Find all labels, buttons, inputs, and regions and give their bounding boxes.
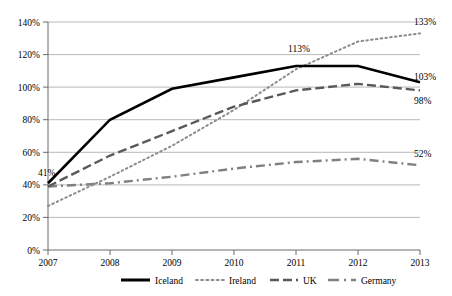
y-tick-label: 100%	[18, 83, 40, 93]
y-tick-label: 0%	[27, 246, 40, 256]
legend-item-iceland[interactable]: Iceland	[121, 276, 183, 286]
legend-label-iceland: Iceland	[155, 276, 183, 286]
x-tick-label: 2010	[225, 258, 244, 268]
data-label-uk-2013: 98%	[414, 96, 432, 106]
legend-item-germany[interactable]: Germany	[328, 276, 397, 286]
series-line-iceland	[48, 66, 420, 183]
y-tick-label: 40%	[23, 180, 41, 190]
legend-item-uk[interactable]: UK	[270, 276, 317, 286]
y-tick-label: 60%	[23, 148, 41, 158]
y-axis-labels: 140% 120% 100% 80% 60% 40% 20% 0%	[18, 18, 40, 256]
x-tick-label: 2011	[287, 258, 306, 268]
data-label-germany-2013: 52%	[414, 149, 432, 159]
data-labels: 41% 113% 133% 103% 98% 52%	[38, 17, 436, 178]
legend-label-germany: Germany	[361, 276, 397, 286]
data-label-iceland-2007: 41%	[38, 168, 56, 178]
y-tick-label: 140%	[18, 18, 40, 28]
x-axis-labels: 2007 2008 2009 2010 2011 2012 2013	[39, 258, 430, 268]
x-tick-label: 2008	[101, 258, 120, 268]
data-label-ireland-2013: 133%	[414, 17, 436, 27]
legend-label-ireland: Ireland	[229, 276, 256, 286]
line-chart: 140% 120% 100% 80% 60% 40% 20% 0% 2007 2…	[0, 0, 452, 296]
data-label-iceland-2013: 103%	[414, 72, 436, 82]
legend-label-uk: UK	[303, 276, 317, 286]
legend-item-ireland[interactable]: Ireland	[196, 276, 256, 286]
x-tick-marks	[48, 250, 420, 255]
y-tick-label: 80%	[23, 115, 41, 125]
x-tick-label: 2009	[163, 258, 182, 268]
x-tick-label: 2013	[411, 258, 430, 268]
x-tick-label: 2007	[39, 258, 58, 268]
series-line-germany	[48, 159, 420, 187]
y-tick-label: 120%	[18, 50, 40, 60]
y-tick-label: 20%	[23, 213, 41, 223]
data-label-iceland-2011: 113%	[288, 44, 310, 54]
x-tick-label: 2012	[349, 258, 368, 268]
y-tick-marks	[43, 22, 48, 250]
chart-legend: Iceland Ireland UK Germany	[121, 276, 397, 286]
chart-canvas: 140% 120% 100% 80% 60% 40% 20% 0% 2007 2…	[0, 0, 452, 296]
series-line-uk	[48, 84, 420, 187]
axis-lines	[48, 22, 420, 250]
gridlines	[48, 22, 420, 217]
